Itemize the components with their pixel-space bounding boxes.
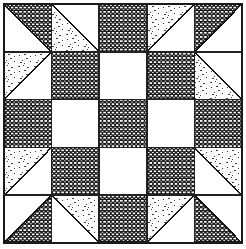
cell-r0-c2-patch	[99, 4, 147, 52]
quilt-block-figure	[0, 0, 246, 249]
cell-r0-c3	[147, 4, 195, 52]
cell-r4-c4	[194, 195, 242, 243]
cell-r4-c1	[52, 195, 100, 243]
cell-r4-c3	[147, 195, 195, 243]
cell-r2-c0-patch	[4, 100, 52, 148]
cell-r3-c2-patch	[99, 147, 147, 195]
cell-r2-c1	[52, 100, 100, 148]
cell-r0-c0	[4, 4, 52, 52]
cell-r1-c3-patch	[147, 52, 195, 100]
cell-r0-c4	[194, 4, 242, 52]
cell-r2-c3	[147, 100, 195, 148]
cell-r4-c0	[4, 195, 52, 243]
cell-r0-c2	[99, 4, 147, 52]
cell-r2-c1-patch	[52, 100, 100, 148]
cell-r4-c2-patch	[99, 195, 147, 243]
cell-r1-c0	[4, 52, 52, 100]
cell-r2-c3-patch	[147, 100, 195, 148]
cell-r1-c4	[194, 52, 242, 100]
cell-r0-c1	[52, 4, 100, 52]
cell-r3-c3-patch	[147, 147, 195, 195]
cell-r2-c4-patch	[194, 100, 242, 148]
quilt-block-svg	[0, 0, 246, 249]
cell-r3-c1	[52, 147, 100, 195]
cell-r2-c0	[4, 100, 52, 148]
cell-r2-c4	[194, 100, 242, 148]
cell-r3-c1-patch	[52, 147, 100, 195]
cell-r1-c1-patch	[52, 52, 100, 100]
cell-r3-c4	[194, 147, 242, 195]
cell-r3-c0	[4, 147, 52, 195]
cell-r2-c2-patch	[99, 100, 147, 148]
cell-r1-c3	[147, 52, 195, 100]
cell-r1-c2	[99, 52, 147, 100]
cell-r2-c2	[99, 100, 147, 148]
quilt-cells-layer	[4, 4, 242, 243]
cell-r3-c2	[99, 147, 147, 195]
cell-r3-c3	[147, 147, 195, 195]
cell-r1-c2-patch	[99, 52, 147, 100]
cell-r4-c2	[99, 195, 147, 243]
cell-r1-c1	[52, 52, 100, 100]
